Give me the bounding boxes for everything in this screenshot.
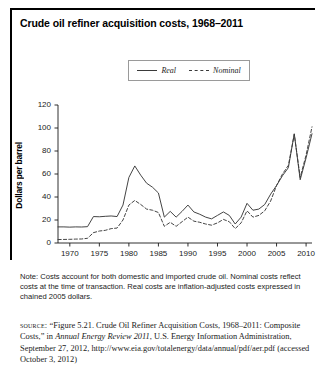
x-axis-tick-label: 1980 — [116, 249, 142, 258]
source-label: source: — [20, 320, 47, 330]
legend-label-real: Real — [161, 66, 176, 75]
source-text-italic: Annual Energy Review 2011 — [55, 332, 150, 341]
y-axis-tick-label: 80 — [29, 146, 51, 155]
figure-left-rule — [10, 8, 12, 260]
figure-container: Crude oil refiner acquisition costs, 196… — [0, 0, 325, 378]
figure-source: source: “Figure 5.21. Crude Oil Refiner … — [20, 320, 312, 366]
y-axis-tick-label: 20 — [29, 215, 51, 224]
x-axis-tick-label: 1995 — [204, 249, 230, 258]
y-axis-tick-label: 40 — [29, 192, 51, 201]
legend-item-real: Real — [137, 66, 176, 75]
chart-plot-area: Dollars per barrel 020406080100120197019… — [20, 96, 315, 261]
figure-title: Crude oil refiner acquisition costs, 196… — [20, 17, 310, 29]
y-axis-tick-label: 120 — [29, 100, 51, 109]
x-axis-tick-label: 1990 — [175, 249, 201, 258]
legend-line-dashed-icon — [189, 70, 209, 71]
legend-row: Real Nominal — [129, 61, 249, 80]
x-axis-tick-label: 1985 — [145, 249, 171, 258]
x-axis-tick-label: 1975 — [86, 249, 112, 258]
legend-label-nominal: Nominal — [213, 66, 241, 75]
legend-item-nominal: Nominal — [189, 66, 241, 75]
series-line-real — [58, 134, 312, 227]
x-axis-tick-label: 2000 — [234, 249, 260, 258]
y-axis-tick-label: 0 — [29, 238, 51, 247]
chart-legend: Real Nominal — [128, 60, 250, 81]
y-axis-tick-label: 60 — [29, 169, 51, 178]
x-axis-tick-label: 2005 — [264, 249, 290, 258]
figure-top-rule — [10, 8, 315, 10]
x-axis-tick-label: 2010 — [293, 249, 319, 258]
line-chart-svg — [20, 96, 315, 261]
legend-line-solid-icon — [137, 70, 157, 71]
figure-note: Note: Costs account for both domestic an… — [20, 272, 310, 303]
series-line-nominal — [58, 127, 312, 240]
x-axis-tick-label: 1970 — [57, 249, 83, 258]
y-axis-tick-label: 100 — [29, 123, 51, 132]
